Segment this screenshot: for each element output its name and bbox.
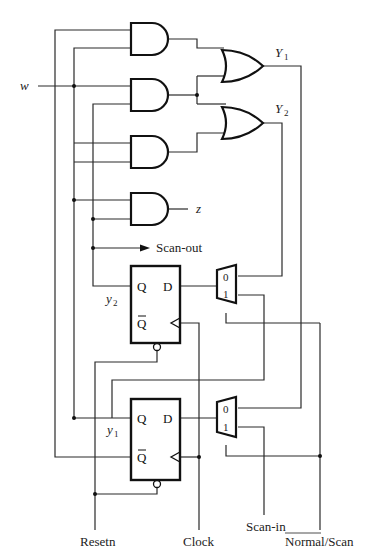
- junction-dot: [195, 93, 199, 97]
- or-gate-1: [222, 50, 263, 82]
- mux-y1-in1-label: 1: [223, 421, 229, 433]
- junction-dot: [197, 455, 201, 459]
- ff-y2-qbar-label: Q: [137, 316, 147, 331]
- or-gate-2: [222, 107, 263, 139]
- and-gate-3: [131, 136, 168, 168]
- state-y2-subscript: 2: [113, 298, 118, 308]
- mux-y2: 0 1: [217, 265, 236, 303]
- ff-y1-d-label: D: [163, 411, 172, 426]
- junction-dot: [91, 246, 95, 250]
- state-y1-label: y: [105, 422, 113, 437]
- and-gate-4: [131, 193, 168, 225]
- mux-y2-in0-label: 0: [223, 271, 229, 283]
- clock-label: Clock: [183, 534, 215, 549]
- junction-dot: [93, 492, 97, 496]
- and-gate-2: [131, 79, 168, 111]
- ff-y2-d-label: D: [163, 279, 172, 294]
- ff-y1-q-label: Q: [137, 411, 147, 426]
- junction-dot: [91, 217, 95, 221]
- output-y2-label: Y: [275, 101, 284, 116]
- normal-scan-label: Normal/Scan: [285, 534, 354, 549]
- ff-y1-qbar-label: Q: [137, 450, 147, 465]
- ff-y1-reset-bubble: [154, 481, 161, 488]
- output-y1-subscript: 1: [284, 52, 289, 62]
- scan-circuit-diagram: Q D Q Q D Q 0 1 0 1 w Y 1 Y 2 z Scan-out…: [0, 0, 377, 551]
- mux-y1-in0-label: 0: [223, 403, 229, 415]
- mux-y1: 0 1: [217, 397, 236, 437]
- input-w-label: w: [20, 78, 29, 93]
- scan-out-arrowhead: [140, 245, 150, 252]
- ff-y2-q-label: Q: [137, 279, 147, 294]
- output-y1-label: Y: [275, 45, 284, 60]
- or-gates: [222, 50, 263, 139]
- flipflop-y1: Q D Q: [131, 399, 180, 488]
- output-y2-subscript: 2: [284, 108, 289, 118]
- junction-dot: [318, 454, 322, 458]
- state-y1-subscript: 1: [114, 429, 119, 439]
- output-z-label: z: [195, 201, 201, 216]
- and-gates: [131, 23, 168, 225]
- state-y2-label: y: [104, 291, 112, 306]
- junction-dot: [72, 198, 76, 202]
- resetn-label: Resetn: [80, 534, 116, 549]
- scan-in-label: Scan-in: [246, 519, 286, 534]
- ff-y2-reset-bubble: [154, 344, 161, 351]
- mux-y2-in1-label: 1: [223, 288, 229, 300]
- scan-out-label: Scan-out: [156, 240, 203, 255]
- junction-dot: [72, 416, 76, 420]
- ff-y2-body: [131, 266, 180, 343]
- labels: w Y 1 Y 2 z Scan-out y 2 y 1 Resetn Cloc…: [20, 45, 354, 549]
- junction-dot: [72, 84, 76, 88]
- and-gate-1: [131, 23, 168, 55]
- flipflop-y2: Q D Q: [131, 266, 180, 351]
